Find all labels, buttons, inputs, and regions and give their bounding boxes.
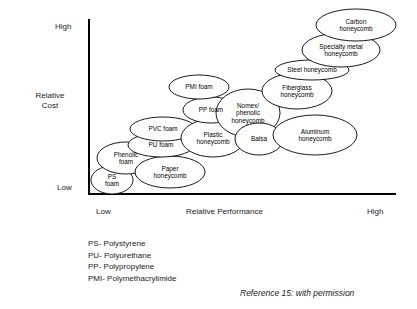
legend-item-0: PS- Polystyrene <box>88 238 176 250</box>
y-axis-high-label: High <box>55 22 71 32</box>
plot-area: PS foamPhenolic foamPaper honeycombPU fo… <box>0 0 417 309</box>
data-bubble <box>316 9 396 41</box>
data-bubble <box>169 75 229 99</box>
data-bubble <box>273 115 357 155</box>
y-axis-title-line: Relative <box>18 91 82 101</box>
data-bubbles <box>91 9 396 194</box>
y-axis-title-line: Cost <box>18 101 82 111</box>
figure-core-material-cost-performance: PS foamPhenolic foamPaper honeycombPU fo… <box>0 0 417 309</box>
reference-credit: Reference 15: with permission <box>240 288 354 298</box>
chart-svg <box>0 0 417 309</box>
x-axis-title: Relative Performance <box>186 207 263 217</box>
y-axis-title: RelativeCost <box>18 91 82 111</box>
legend-item-1: PU- Polyurethane <box>88 250 176 262</box>
y-axis-low-label: Low <box>57 183 72 193</box>
x-axis-low-label: Low <box>96 207 111 217</box>
legend-item-3: PMI- Polymethacrylimide <box>88 273 176 285</box>
abbreviation-legend: PS- PolystyrenePU- PolyurethanePP- Polyp… <box>88 238 176 284</box>
legend-item-2: PP- Polypropylene <box>88 261 176 273</box>
x-axis-high-label: High <box>367 207 383 217</box>
data-bubble <box>135 156 205 188</box>
